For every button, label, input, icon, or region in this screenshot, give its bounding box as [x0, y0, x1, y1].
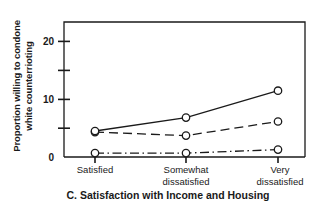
data-point	[182, 132, 189, 139]
x-category-label-satisfied: Satisfied	[77, 164, 113, 175]
y-tick-label-0: 0	[48, 152, 54, 163]
series-solid-line	[95, 91, 278, 131]
series-dash-dot-markers	[91, 146, 281, 157]
x-axis-ticks	[95, 157, 278, 163]
x-category-label-somewhat-dissatisfied-line-1: Somewhat	[164, 164, 209, 175]
data-point	[91, 149, 98, 156]
data-point	[274, 87, 281, 94]
y-tick-label-10: 10	[43, 94, 55, 105]
chart-plot: 20 10 0	[0, 0, 322, 202]
x-category-label-very-dissatisfied-line-1: Very	[270, 164, 289, 175]
chart-figure: Proportion willing to condone white coun…	[0, 0, 322, 202]
data-point	[91, 127, 98, 134]
data-point	[182, 114, 189, 121]
data-point	[182, 149, 189, 156]
x-category-label-very-dissatisfied-line-2: dissatisfied	[257, 176, 304, 187]
chart-title: C. Satisfaction with Income and Housing	[66, 189, 269, 201]
x-category-label-somewhat-dissatisfied-line-2: dissatisfied	[163, 176, 210, 187]
data-point	[274, 118, 281, 125]
data-point	[274, 146, 281, 153]
y-tick-label-20: 20	[43, 36, 55, 47]
